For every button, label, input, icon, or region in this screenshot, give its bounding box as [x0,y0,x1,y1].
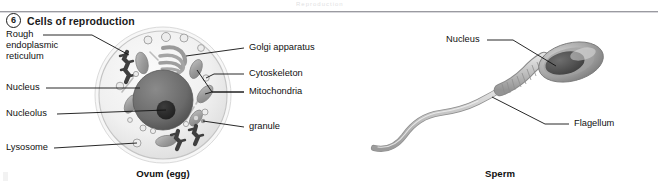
label-lysosome: Lysosome [6,142,48,153]
flagellum [374,88,503,149]
caption-sperm: Sperm [450,168,550,179]
label-mitochondria: Mitochondria [249,86,302,97]
label-granule: granule [249,121,280,132]
label-cytoskeleton: Cytoskeleton [249,68,303,79]
diagram-page: Reproduction 6 Cells of reproduction [0,0,658,185]
label-flagellum: Flagellum [574,118,614,129]
caption-ovum: Ovum (egg) [113,168,213,179]
sperm-midpiece [500,58,544,95]
label-nucleolus: Nucleolus [6,108,47,119]
leader-flagellum [492,97,569,124]
nucleus [133,70,193,130]
page-corner-artifact [3,172,8,181]
sperm-cell [374,36,608,149]
label-nucleus-ovum: Nucleus [6,82,40,93]
label-golgi-apparatus: Golgi apparatus [249,42,315,53]
label-rough-endoplasmic-reticulum: Rough endoplasmic reticulum [6,29,58,63]
label-nucleus-sperm: Nucleus [446,34,480,45]
diagram-artwork [0,0,658,185]
